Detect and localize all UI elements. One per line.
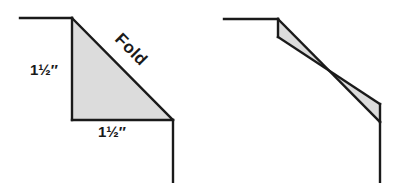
- vertical-dimension-label: 1½″: [30, 61, 58, 78]
- left-diagram-group: 1½″ 1½″ Fold: [20, 18, 173, 183]
- diagram-canvas: 1½″ 1½″ Fold: [0, 0, 403, 183]
- horizontal-dimension-label: 1½″: [98, 123, 126, 140]
- fold-instruction-diagram: 1½″ 1½″ Fold: [0, 0, 403, 183]
- right-diagram-group: [224, 19, 380, 183]
- band-lower-diagonal-edge: [278, 37, 380, 104]
